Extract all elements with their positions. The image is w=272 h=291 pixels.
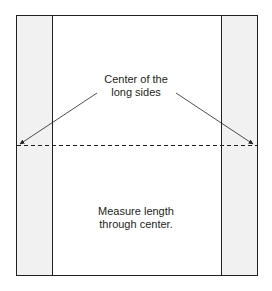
measure-label: Measure length through center. [86,205,186,231]
center-label-line1: Center of the [86,73,186,86]
measurement-diagram [0,0,272,291]
measure-label-line1: Measure length [86,205,186,218]
center-label-line2: long sides [86,86,186,99]
center-label: Center of the long sides [86,73,186,99]
right-side-panel [222,16,258,276]
measure-label-line2: through center. [86,218,186,231]
